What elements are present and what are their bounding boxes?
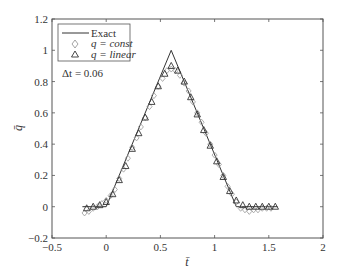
y-tick-label: 1 [43,44,49,56]
y-tick-label: −0.2 [28,232,48,244]
y-tick-label: 0 [43,201,49,213]
y-axis-label: q̄ [11,125,25,131]
y-tick-label: 0.4 [34,138,48,150]
exact-series-line [82,50,277,206]
timestep-annotation: Δt = 0.06 [62,67,104,79]
x-axis-label: t̄ [185,255,189,269]
x-tick-label: 1.5 [262,241,276,253]
x-tick-label: 2 [320,241,326,253]
diamond-marker [169,66,174,72]
y-tick-label: 0.8 [34,76,48,88]
triangle-marker [168,62,174,68]
triangle-marker [233,197,239,203]
y-tick-label: 0.2 [34,169,48,181]
triangle-marker [83,205,89,211]
chart: −0.500.511.52 −0.200.20.40.60.811.2 t̄ q… [0,0,342,278]
x-tick-label: 0 [103,241,109,253]
y-tick-label: 0.6 [34,107,48,119]
legend-linear-label: q = linear [91,48,136,60]
y-tick-label: 1.2 [34,13,48,25]
x-tick-label: 0.5 [154,241,168,253]
x-tick-label: 1 [212,241,218,253]
legend: Exact q = const q = linear [58,24,136,61]
